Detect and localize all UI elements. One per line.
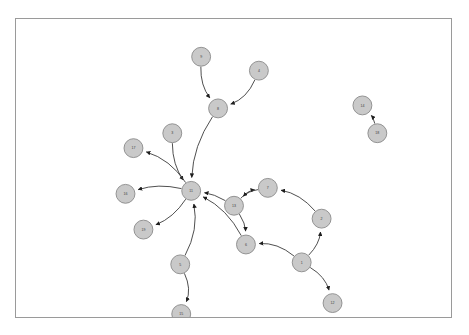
graph-canvas-frame: 123456789111213141516171819 bbox=[15, 18, 452, 318]
graph-edge bbox=[172, 143, 183, 180]
node-layer: 123456789111213141516171819 bbox=[116, 47, 387, 317]
node-circle[interactable] bbox=[292, 253, 311, 272]
graph-node[interactable]: 16 bbox=[116, 184, 135, 203]
graph-edge bbox=[146, 152, 185, 183]
graph-edge bbox=[239, 214, 245, 231]
graph-edge bbox=[231, 80, 255, 104]
node-circle[interactable] bbox=[124, 139, 143, 158]
graph-edge bbox=[259, 243, 294, 256]
node-circle[interactable] bbox=[249, 61, 268, 80]
node-circle[interactable] bbox=[209, 99, 228, 118]
node-circle[interactable] bbox=[368, 124, 387, 143]
graph-node[interactable]: 4 bbox=[249, 61, 268, 80]
graph-edge bbox=[281, 190, 315, 211]
graph-node[interactable]: 14 bbox=[353, 96, 372, 115]
graph-node[interactable]: 7 bbox=[258, 178, 277, 197]
graph-node[interactable]: 3 bbox=[163, 124, 182, 143]
graph-node[interactable]: 5 bbox=[171, 255, 190, 274]
graph-edge bbox=[371, 115, 374, 123]
graph-node[interactable]: 18 bbox=[368, 124, 387, 143]
graph-svg: 123456789111213141516171819 bbox=[16, 19, 451, 317]
node-circle[interactable] bbox=[172, 305, 191, 317]
graph-node[interactable]: 13 bbox=[225, 196, 244, 215]
graph-node[interactable]: 11 bbox=[182, 181, 201, 200]
graph-node[interactable]: 17 bbox=[124, 139, 143, 158]
node-circle[interactable] bbox=[163, 124, 182, 143]
graph-node[interactable]: 19 bbox=[134, 220, 153, 239]
graph-node[interactable]: 6 bbox=[236, 235, 255, 254]
node-circle[interactable] bbox=[353, 96, 372, 115]
node-circle[interactable] bbox=[258, 178, 277, 197]
node-circle[interactable] bbox=[116, 184, 135, 203]
graph-edge bbox=[201, 67, 210, 98]
graph-edge bbox=[156, 199, 186, 225]
graph-edge bbox=[310, 267, 329, 290]
graph-edge bbox=[192, 117, 213, 178]
node-circle[interactable] bbox=[323, 294, 342, 313]
graph-edge bbox=[138, 186, 181, 190]
node-circle[interactable] bbox=[225, 196, 244, 215]
node-circle[interactable] bbox=[171, 255, 190, 274]
graph-edge bbox=[185, 204, 195, 256]
graph-node[interactable]: 8 bbox=[209, 99, 228, 118]
graph-node[interactable]: 9 bbox=[192, 47, 211, 66]
node-circle[interactable] bbox=[182, 181, 201, 200]
node-circle[interactable] bbox=[312, 209, 331, 228]
graph-node[interactable]: 15 bbox=[172, 305, 191, 317]
graph-edge bbox=[184, 273, 188, 301]
graph-node[interactable]: 2 bbox=[312, 209, 331, 228]
node-circle[interactable] bbox=[192, 47, 211, 66]
graph-node[interactable]: 12 bbox=[323, 294, 342, 313]
graph-node[interactable]: 1 bbox=[292, 253, 311, 272]
node-circle[interactable] bbox=[134, 220, 153, 239]
graph-edge bbox=[309, 232, 321, 255]
node-circle[interactable] bbox=[236, 235, 255, 254]
